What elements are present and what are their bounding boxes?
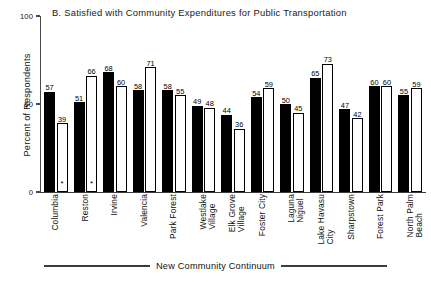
bar-value-label: 59 xyxy=(412,81,420,88)
x-tick-label: Park Forest xyxy=(169,194,178,239)
x-tick-label: Laguna Niguel xyxy=(287,194,306,223)
bar-asterisk-marker: * xyxy=(60,180,63,188)
bar-value-label: 48 xyxy=(206,100,214,107)
bar-black: 55 xyxy=(398,95,409,192)
bar-white: 60 xyxy=(381,86,392,192)
bar-black: 58 xyxy=(133,90,144,192)
caption-rule-left xyxy=(44,265,150,266)
x-tick-label: Sharpstown xyxy=(347,194,356,240)
bar-value-label: 58 xyxy=(134,83,142,90)
bar-value-label: 60 xyxy=(370,79,378,86)
bar-black: 47 xyxy=(339,109,350,192)
bar-white: 73 xyxy=(322,64,333,192)
bar-group: 6573 xyxy=(307,16,337,192)
bar-group: 5045 xyxy=(277,16,307,192)
x-tick-label: Forest Park xyxy=(376,194,385,239)
chart-figure: B. Satisfied with Community Expenditures… xyxy=(0,0,431,285)
x-tick-label: Westlake Village xyxy=(199,194,218,230)
bar-value-label: 54 xyxy=(252,90,260,97)
bar-value-label: 55 xyxy=(400,88,408,95)
bar-black: 49 xyxy=(192,106,203,192)
x-tick-label: North Palm Beach xyxy=(406,194,425,237)
bar-black: 44 xyxy=(221,115,232,192)
y-tick-mark xyxy=(36,103,40,104)
y-tick-label: 100 xyxy=(11,12,33,21)
x-axis-caption: New Community Continuum xyxy=(0,261,431,271)
caption-rule-right xyxy=(281,265,387,266)
bar-white: 39* xyxy=(57,123,68,192)
bar-value-label: 39 xyxy=(58,116,66,123)
bar-group: 5871 xyxy=(130,16,160,192)
bar-value-label: 47 xyxy=(341,102,349,109)
bar-value-label: 66 xyxy=(87,68,95,75)
bar-value-label: 68 xyxy=(104,65,112,72)
bar-black: 54 xyxy=(251,97,262,192)
bar-white: 59 xyxy=(411,88,422,192)
x-tick-label: Columbia xyxy=(51,194,60,231)
bar-value-label: 57 xyxy=(45,84,53,91)
bar-group: 5459 xyxy=(248,16,278,192)
bar-black: 51 xyxy=(74,102,85,192)
bar-value-label: 73 xyxy=(324,56,332,63)
bar-group: 4742 xyxy=(336,16,366,192)
x-axis-tick-labels: ColumbiaRestonIrvineValenciaPark ForestW… xyxy=(41,194,425,254)
bar-white: 66* xyxy=(86,76,97,192)
x-tick-label: Elk Grove Village xyxy=(228,194,247,232)
bar-black: 58 xyxy=(162,90,173,192)
y-tick-label: 50 xyxy=(11,100,33,109)
bar-white: 71 xyxy=(145,67,156,192)
x-tick-label: Reston xyxy=(81,194,90,221)
bar-white: 60 xyxy=(116,86,127,192)
x-tick-label: Irvine xyxy=(110,194,119,215)
bar-value-label: 60 xyxy=(383,79,391,86)
bar-value-label: 65 xyxy=(311,70,319,77)
bar-group: 6060 xyxy=(366,16,396,192)
bar-black: 68 xyxy=(103,72,114,192)
bar-group: 5559 xyxy=(395,16,425,192)
bar-value-label: 51 xyxy=(75,95,83,102)
bar-white: 42 xyxy=(352,118,363,192)
bar-group: 5855 xyxy=(159,16,189,192)
bar-white: 48 xyxy=(204,108,215,192)
y-tick-label: 0 xyxy=(11,188,33,197)
bar-black: 60 xyxy=(369,86,380,192)
plot-area: 5739*5166*686058715855494844365459504565… xyxy=(41,16,425,192)
bar-white: 59 xyxy=(263,88,274,192)
bar-white: 36 xyxy=(234,129,245,192)
bar-white: 55 xyxy=(175,95,186,192)
bar-black: 65 xyxy=(310,78,321,192)
bar-value-label: 60 xyxy=(117,79,125,86)
bar-value-label: 36 xyxy=(235,121,243,128)
bar-value-label: 45 xyxy=(294,105,302,112)
y-tick-mark xyxy=(36,15,40,16)
bar-group: 6860 xyxy=(100,16,130,192)
bar-group: 4436 xyxy=(218,16,248,192)
bar-white: 45 xyxy=(293,113,304,192)
x-axis-caption-text: New Community Continuum xyxy=(156,261,275,271)
bar-value-label: 50 xyxy=(282,97,290,104)
x-tick-label: Valencia xyxy=(140,194,149,227)
bar-value-label: 42 xyxy=(353,111,361,118)
bar-black: 57 xyxy=(44,92,55,192)
bar-value-label: 58 xyxy=(164,83,172,90)
x-tick-label: Lake Havasu City xyxy=(317,194,336,245)
bar-group: 5166* xyxy=(71,16,101,192)
bar-group: 5739* xyxy=(41,16,71,192)
bar-value-label: 59 xyxy=(265,81,273,88)
bar-asterisk-marker: * xyxy=(90,180,93,188)
bar-group: 4948 xyxy=(189,16,219,192)
bar-value-label: 49 xyxy=(193,98,201,105)
bar-value-label: 55 xyxy=(176,88,184,95)
x-tick-label: Foster City xyxy=(258,194,267,236)
bar-black: 50 xyxy=(280,104,291,192)
bar-value-label: 71 xyxy=(147,60,155,67)
bar-value-label: 44 xyxy=(223,107,231,114)
